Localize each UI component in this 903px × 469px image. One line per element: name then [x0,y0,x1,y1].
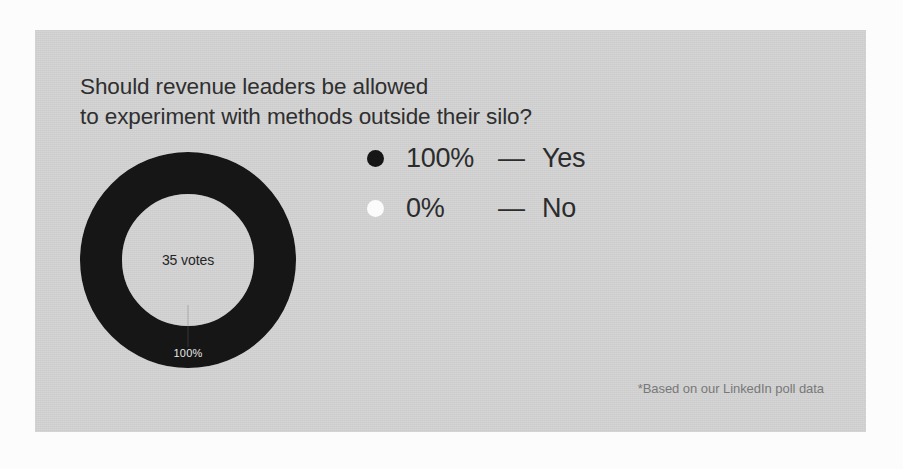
source-footnote: *Based on our LinkedIn poll data [638,381,824,396]
light-dot-icon [367,200,384,217]
legend-percent-no: 0% [406,195,498,222]
legend-answer-no: No [542,195,576,222]
page-canvas: Should revenue leaders be allowed to exp… [0,0,903,469]
donut-chart: 35 votes 100% [80,152,296,368]
chart-legend: 100% — Yes 0% — No [367,133,585,233]
page-title: Should revenue leaders be allowed to exp… [80,72,720,132]
legend-answer-yes: Yes [542,145,585,172]
legend-item-no: 0% — No [367,183,585,233]
poll-result-card: Should revenue leaders be allowed to exp… [35,30,866,432]
legend-separator: — [498,195,542,222]
legend-separator: — [498,145,542,172]
donut-chart-svg [80,152,296,368]
legend-item-yes: 100% — Yes [367,133,585,183]
dark-dot-icon [367,150,384,167]
legend-percent-yes: 100% [406,145,498,172]
